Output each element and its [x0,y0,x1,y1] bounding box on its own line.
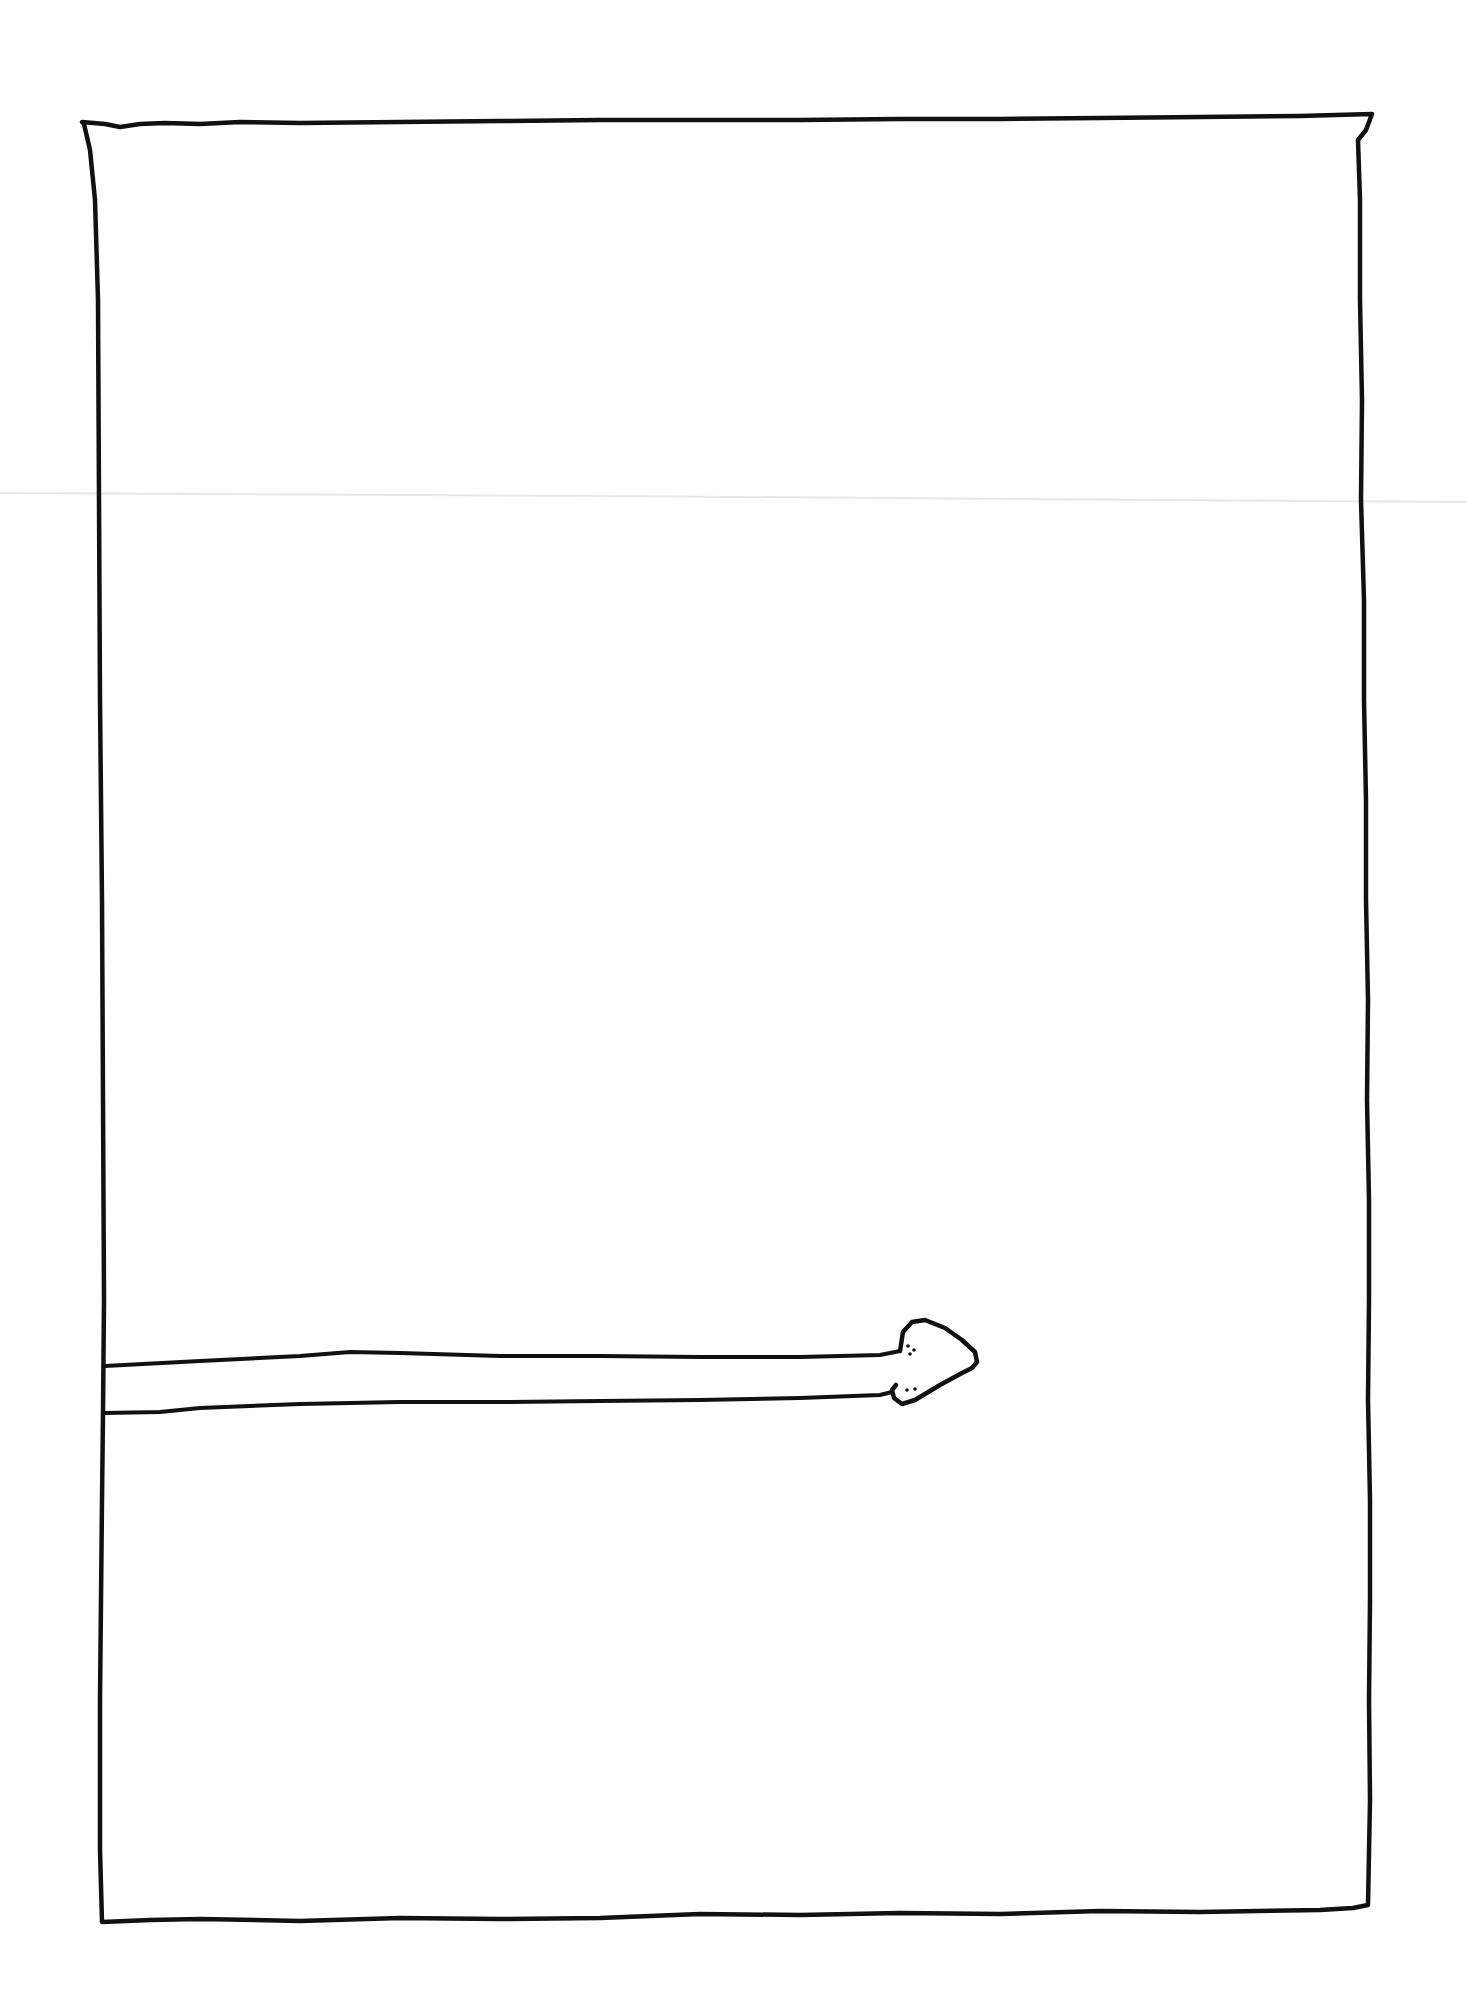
rectangle-frame [82,114,1372,1922]
arrow-head-icon [892,1320,977,1404]
paper-fold-line [0,493,1466,502]
arrow-shaft-bottom [105,1392,892,1413]
arrow-shaft-top [105,1351,900,1366]
sketch-canvas [0,0,1466,2014]
